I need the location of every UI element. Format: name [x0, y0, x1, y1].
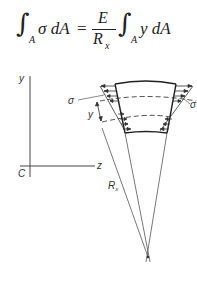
radius-lines: [102, 128, 167, 262]
bottom-fiber: [125, 132, 167, 134]
beam-segment: [100, 81, 196, 133]
stress-distribution-left: [100, 85, 131, 132]
left-radial-line: [125, 133, 150, 262]
y-distance-dimension: [96, 102, 103, 121]
sigma-label-left: σ: [68, 95, 75, 106]
top-fiber: [115, 81, 176, 84]
z-axis-label: z: [96, 160, 102, 171]
right-radial-line: [146, 133, 167, 262]
beam-bending-diagram: y z C Rx σ: [0, 0, 197, 283]
stress-distribution-right: [160, 85, 193, 132]
sigma-label-right: σ: [190, 99, 197, 110]
radius-label: Rx: [108, 180, 119, 192]
y-axis-label: y: [18, 73, 25, 84]
right-edge: [167, 84, 176, 133]
sigma-right-leader: [183, 98, 190, 104]
left-edge: [115, 84, 125, 133]
fiber-dashed-line: [102, 115, 170, 122]
y-distance-label: y: [87, 109, 94, 120]
radius-dimension-line: [102, 128, 148, 257]
center-of-curvature: [147, 256, 150, 259]
coordinate-axes: [20, 76, 95, 177]
sigma-left-leader: [78, 95, 104, 100]
origin-label: C: [18, 168, 26, 179]
